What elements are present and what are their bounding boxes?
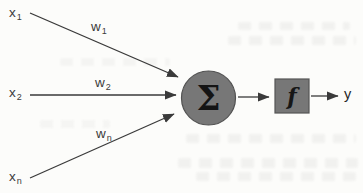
weight-label-w1-base: w — [91, 19, 101, 34]
neuron-diagram: x1 x2 xn w1 w2 wn Σ f y — [0, 0, 363, 193]
weight-label-w2-base: w — [95, 75, 105, 90]
weight-label-w2: w2 — [95, 76, 111, 92]
input-label-x1: x1 — [9, 6, 22, 22]
weight-label-w2-subscript: 2 — [106, 82, 111, 92]
input-label-xn: xn — [9, 170, 22, 186]
weight-label-w1-subscript: 1 — [102, 26, 107, 36]
weight-label-w1: w1 — [91, 20, 107, 36]
weight-label-wn-base: w — [96, 126, 106, 141]
input-label-x1-base: x — [9, 5, 16, 20]
output-label-y: y — [344, 87, 351, 102]
input-label-x2-base: x — [9, 85, 16, 100]
arrow-inputn-to-sum — [30, 114, 174, 178]
input-label-xn-subscript: n — [17, 176, 22, 186]
input-label-x2-subscript: 2 — [17, 92, 22, 102]
input-label-x2: x2 — [9, 86, 22, 102]
weight-label-wn-subscript: n — [107, 133, 112, 143]
weight-label-wn: wn — [96, 127, 112, 143]
input-label-x1-subscript: 1 — [17, 12, 22, 22]
input-label-xn-base: x — [9, 169, 16, 184]
activation-function-symbol: f — [275, 79, 309, 113]
summation-sigma-symbol: Σ — [181, 70, 236, 125]
